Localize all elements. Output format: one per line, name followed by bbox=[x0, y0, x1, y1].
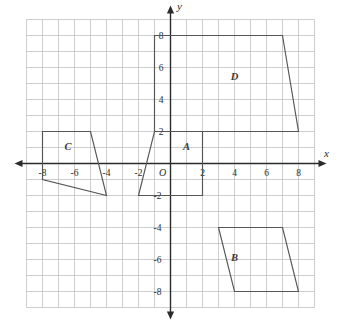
x-axis-label: x bbox=[323, 147, 329, 159]
origin-label: O bbox=[159, 167, 166, 178]
y-axis-arrow-down bbox=[167, 312, 174, 320]
y-tick-label: -4 bbox=[154, 223, 162, 233]
x-tick-label: -2 bbox=[135, 168, 143, 178]
x-tick-label: 6 bbox=[264, 168, 269, 178]
y-tick-label: -8 bbox=[154, 287, 162, 297]
y-axis-arrow-up bbox=[167, 6, 174, 14]
axes: xyO bbox=[15, 0, 330, 320]
shape-label-d: D bbox=[230, 71, 239, 82]
shape-label-b: B bbox=[230, 252, 238, 263]
y-tick-label: 6 bbox=[159, 63, 164, 73]
shape-label-c: C bbox=[65, 141, 73, 152]
x-axis-arrow-right bbox=[319, 160, 327, 167]
x-tick-label: 4 bbox=[232, 168, 237, 178]
x-tick-label: -4 bbox=[103, 168, 111, 178]
x-axis-arrow-left bbox=[15, 160, 23, 167]
x-tick-label: 8 bbox=[296, 168, 301, 178]
y-tick-label: -6 bbox=[154, 255, 162, 265]
x-tick-label: -6 bbox=[71, 168, 79, 178]
shape-label-a: A bbox=[182, 141, 190, 152]
y-tick-label: 4 bbox=[159, 95, 164, 105]
y-axis-label: y bbox=[176, 0, 182, 12]
coordinate-plane-figure: xyO -8-6-4-224688642-2-4-6-8 ABCD bbox=[0, 0, 338, 332]
